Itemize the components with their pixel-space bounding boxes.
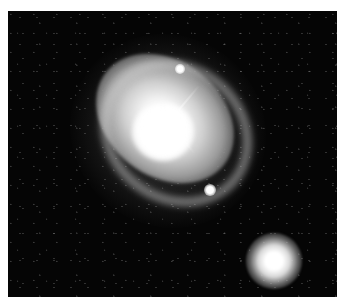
star-upper [175, 64, 185, 74]
companion-galaxy [246, 233, 302, 289]
galaxy-core [132, 103, 194, 161]
star-lower [204, 184, 216, 196]
astronomical-photo [8, 11, 337, 297]
